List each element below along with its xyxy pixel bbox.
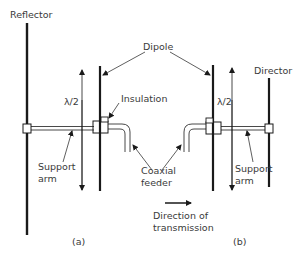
support-arm-label-a-2: arm (38, 173, 57, 185)
dipole-leader-a (103, 52, 145, 75)
coaxial-label-1: Coaxial (141, 165, 176, 177)
half-wave-label-a: λ/2 (64, 96, 79, 108)
half-wave-label-b: λ/2 (217, 96, 232, 108)
support-arm-label-a-1: Support (38, 161, 76, 173)
direction-label-2: transmission (153, 222, 214, 234)
support-arm-label-b-2: arm (235, 175, 254, 187)
director-clamp (265, 124, 273, 133)
reflector-label: Reflector (10, 9, 53, 21)
dipole-leader-b (170, 52, 210, 75)
support-arm-label-b-1: Support (235, 163, 273, 175)
support-arm-leader-b (247, 131, 253, 162)
coaxial-label-2: feeder (141, 177, 172, 189)
reflector-clamp (23, 124, 31, 133)
dipole-label: Dipole (143, 41, 173, 53)
antenna-diagram (0, 0, 294, 262)
panel-b-label: (b) (233, 236, 246, 248)
director-label: Director (254, 65, 292, 77)
insulation-label: Insulation (121, 93, 167, 105)
panel-a-label: (a) (72, 236, 85, 248)
coaxial-feeder-a (108, 124, 130, 152)
insulation-leader (109, 103, 119, 118)
direction-label-1: Direction of (153, 210, 208, 222)
coaxial-feeder-b (184, 124, 206, 152)
support-arm-leader-a (63, 131, 72, 162)
